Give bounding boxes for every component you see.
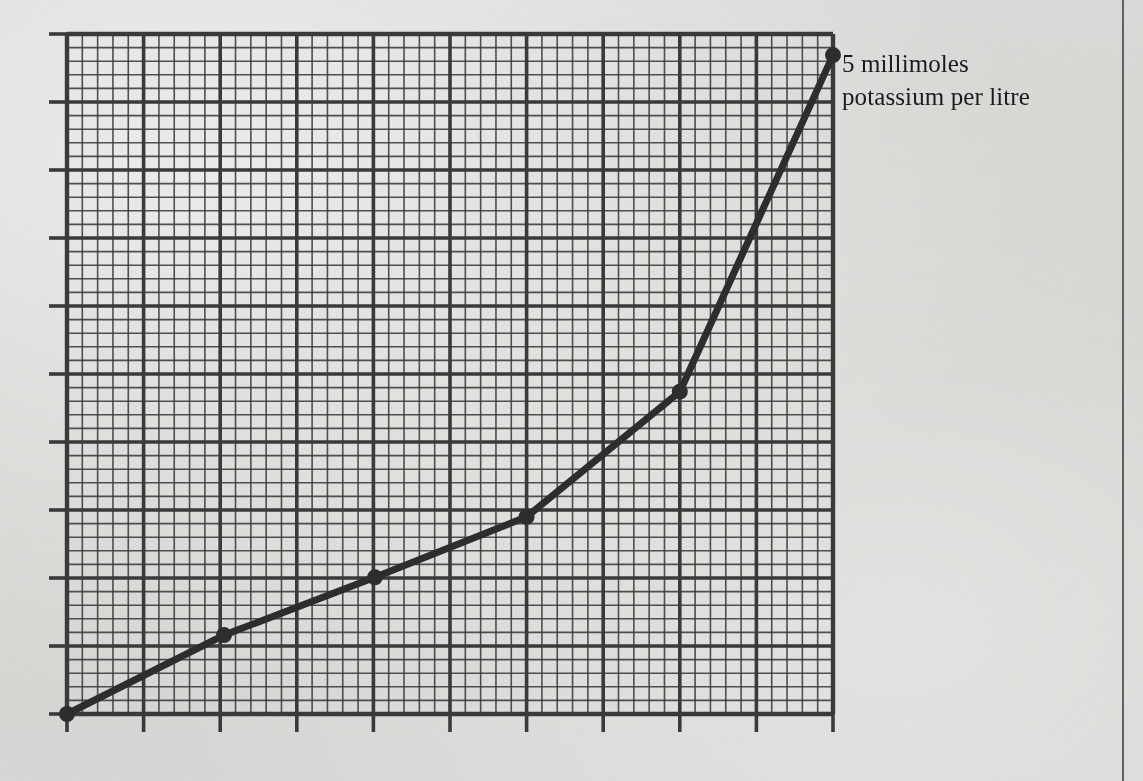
line-chart [37, 4, 863, 744]
series-data-point [59, 706, 75, 722]
axis-ticks [49, 34, 833, 732]
series-data-point [825, 47, 841, 63]
series-data-point [672, 384, 688, 400]
chart-plot-area [37, 4, 863, 744]
page-margin-rule [1122, 0, 1124, 781]
series-data-point [367, 569, 383, 585]
series-annotation-label: 5 millimoles potassium per litre [842, 48, 1030, 113]
series-data-point [216, 627, 232, 643]
grid-lines [67, 34, 833, 714]
series-data-point [519, 509, 535, 525]
